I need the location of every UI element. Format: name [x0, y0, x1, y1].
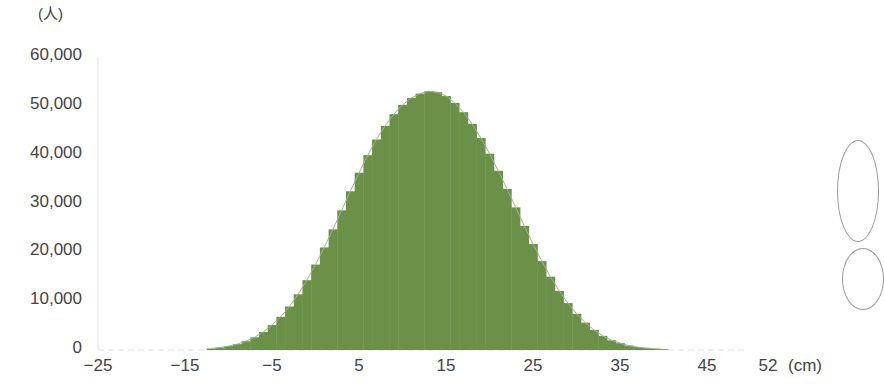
histogram-bar: [433, 92, 442, 350]
histogram-bar: [537, 261, 546, 350]
histogram-bar: [442, 96, 451, 350]
histogram-bar: [329, 229, 338, 350]
histogram-bar: [572, 314, 581, 350]
histogram-bar: [285, 307, 294, 350]
histogram-bar: [294, 294, 303, 350]
decorative-arc-bottom: [842, 248, 884, 310]
histogram-bar: [346, 191, 355, 350]
histogram-bar: [581, 323, 590, 350]
histogram-bar: [424, 91, 433, 350]
histogram-bar: [363, 155, 372, 350]
histogram-bar: [494, 171, 503, 350]
histogram-bar: [416, 94, 425, 350]
histogram-bar: [485, 154, 494, 350]
histogram-bar: [398, 105, 407, 350]
histogram-bar: [564, 303, 573, 350]
histogram-bar: [355, 173, 364, 350]
histogram-bar: [372, 140, 381, 350]
histogram-bar: [337, 210, 346, 350]
decorative-arc-top: [837, 140, 879, 242]
histogram-bar: [302, 280, 311, 350]
histogram-bar: [320, 247, 329, 350]
histogram-bar: [381, 126, 390, 350]
histogram-bar: [450, 103, 459, 350]
histogram-bar: [546, 277, 555, 350]
histogram-bar: [529, 244, 538, 350]
histogram-bar: [389, 114, 398, 350]
histogram-bar: [590, 330, 599, 350]
histogram-bar: [511, 207, 520, 350]
histogram-bar: [520, 226, 529, 350]
histogram-bar: [268, 325, 277, 350]
histogram-bar: [459, 112, 468, 350]
histogram-bar: [503, 189, 512, 350]
histogram-bar: [407, 98, 416, 350]
histogram-bar: [259, 332, 268, 350]
histogram-bar: [250, 337, 259, 350]
histogram-bar: [311, 265, 320, 350]
histogram-bar: [477, 138, 486, 350]
histogram-bar: [555, 291, 564, 350]
histogram-bar: [468, 124, 477, 350]
histogram-bar: [276, 317, 285, 350]
